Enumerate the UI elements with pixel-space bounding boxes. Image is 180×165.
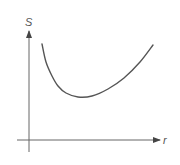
chart: S r — [0, 0, 180, 165]
x-axis-label: r — [163, 134, 168, 146]
y-axis-label: S — [25, 16, 33, 28]
data-curve — [42, 44, 153, 97]
